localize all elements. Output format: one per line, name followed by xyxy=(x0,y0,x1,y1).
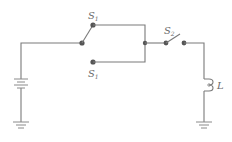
circuit-diagram: S1 S1 S2 L xyxy=(0,0,232,142)
label-s1-lower: S1 xyxy=(88,68,99,80)
battery-icon xyxy=(14,79,28,88)
left-wire xyxy=(21,43,82,122)
ground-left-icon xyxy=(13,122,29,128)
right-wire xyxy=(184,43,204,122)
label-s2: S2 xyxy=(164,25,175,37)
label-s1-upper: S1 xyxy=(88,10,99,22)
inductor-icon xyxy=(204,79,213,91)
s1-blade xyxy=(82,25,93,43)
ground-right-icon xyxy=(196,122,212,128)
switch-s1 xyxy=(79,22,95,64)
parallel-wires xyxy=(93,25,166,62)
label-inductor: L xyxy=(216,80,224,91)
